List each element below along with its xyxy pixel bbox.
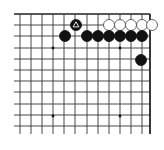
white-stone[interactable] [137,20,148,31]
star-point [119,115,122,118]
black-stone[interactable] [82,31,93,42]
black-stone[interactable] [60,31,71,42]
black-stone[interactable] [115,31,126,42]
black-stone[interactable] [93,31,104,42]
black-stone[interactable] [126,31,137,42]
go-board[interactable] [0,0,164,150]
white-stone[interactable] [115,20,126,31]
black-stone[interactable] [104,31,115,42]
black-stone[interactable] [137,31,148,42]
black-stone[interactable] [136,55,147,66]
star-point [52,47,55,50]
star-point [52,115,55,118]
star-point [119,47,122,50]
white-stone[interactable] [147,20,158,31]
white-stone[interactable] [104,20,115,31]
white-stone[interactable] [126,20,137,31]
